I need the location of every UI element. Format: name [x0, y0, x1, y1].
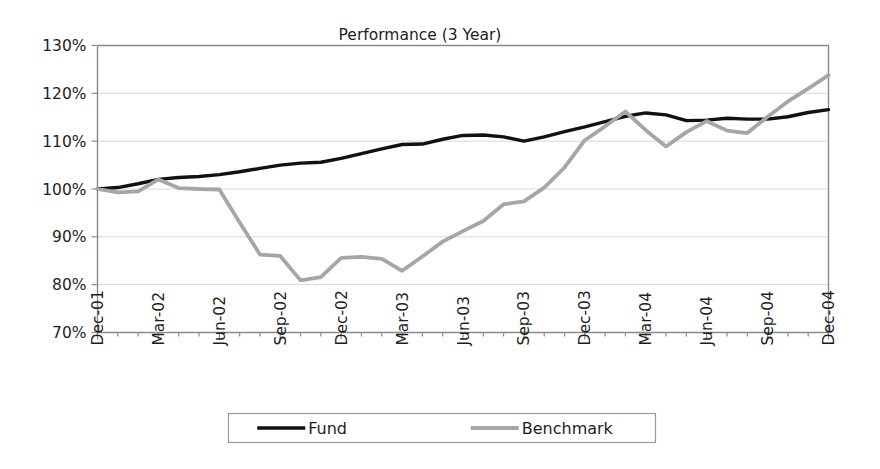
- y-axis-tick-label: 110%: [42, 133, 86, 151]
- y-axis-tick-label: 90%: [52, 228, 86, 246]
- performance-chart: 70%80%90%100%110%120%130% Dec-01Mar-02Ju…: [0, 0, 880, 469]
- y-axis-tick-label: 100%: [42, 181, 86, 199]
- y-axis-tick-label: 80%: [52, 276, 86, 294]
- x-axis-tick-label: Sep-04: [759, 291, 777, 346]
- x-axis-tick-label: Mar-03: [394, 292, 412, 346]
- x-axis-tick-label: Dec-04: [820, 290, 838, 345]
- y-axis-tick-label: 130%: [42, 37, 86, 55]
- x-axis-tick-label: Jun-02: [211, 296, 229, 347]
- chart-legend: FundBenchmark: [229, 414, 656, 443]
- x-axis-tick-label: Dec-01: [89, 290, 107, 345]
- y-axis-tick-label: 70%: [52, 324, 86, 342]
- x-axis-tick-label: Mar-02: [150, 292, 168, 346]
- x-axis-tick-label: Dec-03: [576, 290, 594, 345]
- x-axis-tick-label: Sep-03: [515, 291, 533, 346]
- legend-label-fund: Fund: [308, 419, 347, 438]
- x-axis-tick-label: Dec-02: [333, 290, 351, 345]
- x-axis-tick-label: Sep-02: [272, 291, 290, 346]
- legend-label-benchmark: Benchmark: [522, 419, 614, 438]
- page-title: Performance (3 Year): [339, 26, 502, 44]
- x-axis-tick-label: Mar-04: [637, 292, 655, 346]
- x-axis-tick-label: Jun-03: [455, 296, 473, 347]
- y-axis-tick-label: 120%: [42, 85, 86, 103]
- x-axis-tick-label: Jun-04: [698, 296, 716, 347]
- chart-canvas: 70%80%90%100%110%120%130% Dec-01Mar-02Ju…: [0, 0, 880, 469]
